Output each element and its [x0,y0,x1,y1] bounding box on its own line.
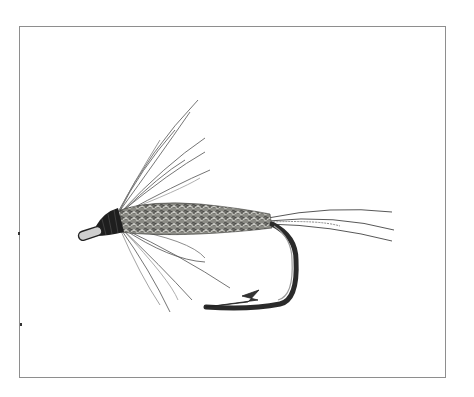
hook-eye [77,225,103,241]
fishing-fly-illustration [0,0,474,397]
dubbed-body [120,203,272,235]
hook-point [206,290,259,307]
hackle-lower [120,228,230,312]
hackle-upper [118,100,210,214]
